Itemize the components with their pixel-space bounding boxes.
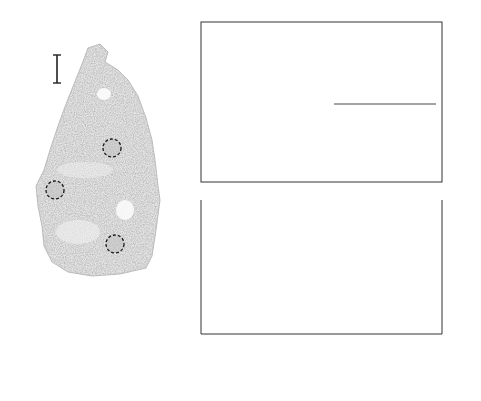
chart-top-frame	[201, 22, 442, 182]
chart-top	[201, 22, 442, 182]
roi-circle-2[interactable]	[46, 181, 64, 199]
roi-circle-1[interactable]	[103, 139, 121, 157]
scale-bar	[53, 55, 61, 83]
panel-a-tissue-image	[30, 40, 165, 280]
figure	[0, 0, 481, 401]
roi-circle-3[interactable]	[106, 235, 124, 253]
